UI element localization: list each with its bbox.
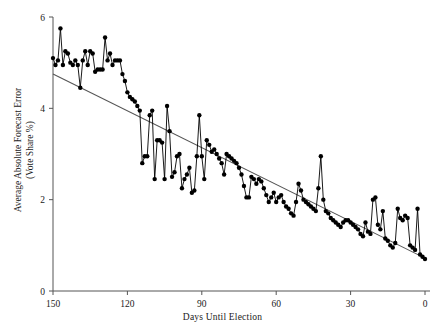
data-point [222, 172, 226, 176]
y-axis-label: Average Absolute Forecast Error (Vote Sh… [12, 40, 36, 260]
y-tick-label: 2 [40, 195, 45, 205]
data-point [274, 200, 278, 204]
data-point [214, 152, 218, 156]
data-point [200, 154, 204, 158]
data-point [262, 186, 266, 190]
data-point [381, 209, 385, 213]
data-point [76, 63, 80, 67]
data-point [393, 241, 397, 245]
data-point [103, 35, 107, 39]
data-point [123, 79, 127, 83]
data-point [160, 140, 164, 144]
data-point [217, 156, 221, 160]
data-point [314, 209, 318, 213]
data-point [185, 172, 189, 176]
data-point [83, 49, 87, 53]
data-point [195, 154, 199, 158]
data-point [338, 225, 342, 229]
data-point [386, 239, 390, 243]
data-point [71, 63, 75, 67]
data-point [247, 195, 251, 199]
data-point [242, 184, 246, 188]
data-point [81, 58, 85, 62]
data-point [376, 223, 380, 227]
data-point [145, 154, 149, 158]
data-point [120, 72, 124, 76]
y-tick-label: 4 [40, 104, 45, 114]
axes [53, 17, 430, 291]
data-point [321, 197, 325, 201]
data-point [269, 195, 273, 199]
data-point [259, 179, 263, 183]
data-point [415, 207, 419, 211]
plot-area: 0246 1501209060300 [0, 0, 445, 333]
data-point [294, 200, 298, 204]
data-point [197, 113, 201, 117]
data-point [356, 227, 360, 231]
data-point [212, 147, 216, 151]
y-axis-label-line2: (Vote Share %) [24, 40, 36, 260]
series-line [53, 28, 425, 259]
y-tick-label: 6 [40, 13, 45, 23]
data-point [319, 154, 323, 158]
data-point [237, 166, 241, 170]
data-point [58, 26, 62, 30]
data-point [51, 56, 55, 60]
data-point [391, 245, 395, 249]
x-tick-label: 60 [271, 299, 281, 309]
data-point [252, 177, 256, 181]
data-point [316, 186, 320, 190]
data-point [361, 234, 365, 238]
data-point [133, 99, 137, 103]
data-point [405, 216, 409, 220]
data-point [86, 63, 90, 67]
data-point [167, 129, 171, 133]
x-tick-label: 150 [46, 299, 61, 309]
data-point [279, 193, 283, 197]
y-tick-label: 0 [40, 287, 45, 297]
data-point [182, 177, 186, 181]
data-point [192, 188, 196, 192]
data-point [396, 207, 400, 211]
data-point [56, 58, 60, 62]
data-point [272, 191, 276, 195]
data-point [150, 108, 154, 112]
data-point [326, 211, 330, 215]
data-point [138, 108, 142, 112]
data-point [286, 207, 290, 211]
data-point [110, 63, 114, 67]
data-point [118, 58, 122, 62]
data-point [180, 186, 184, 190]
data-point [219, 161, 223, 165]
data-point [140, 161, 144, 165]
x-tick-label: 30 [346, 299, 356, 309]
data-point [423, 257, 427, 261]
data-point [170, 175, 174, 179]
data-point [291, 213, 295, 217]
x-tick-label: 90 [197, 299, 207, 309]
data-point [100, 67, 104, 71]
x-axis-ticks: 1501209060300 [46, 291, 428, 309]
data-point [162, 177, 166, 181]
data-point [61, 63, 65, 67]
data-point [207, 143, 211, 147]
data-point [66, 51, 70, 55]
data-point [53, 63, 57, 67]
data-point [165, 104, 169, 108]
data-point [90, 51, 94, 55]
data-point [108, 51, 112, 55]
data-point [296, 181, 300, 185]
x-tick-label: 120 [120, 299, 135, 309]
data-point [363, 220, 367, 224]
data-point [125, 90, 129, 94]
data-point [378, 227, 382, 231]
data-point [267, 200, 271, 204]
data-point [368, 232, 372, 236]
data-point [73, 58, 77, 62]
data-point [234, 161, 238, 165]
data-point [78, 86, 82, 90]
y-axis-ticks: 0246 [40, 13, 53, 297]
x-axis-label: Days Until Election [0, 312, 445, 322]
data-point [413, 248, 417, 252]
y-axis-label-line1: Average Absolute Forecast Error [12, 40, 24, 260]
